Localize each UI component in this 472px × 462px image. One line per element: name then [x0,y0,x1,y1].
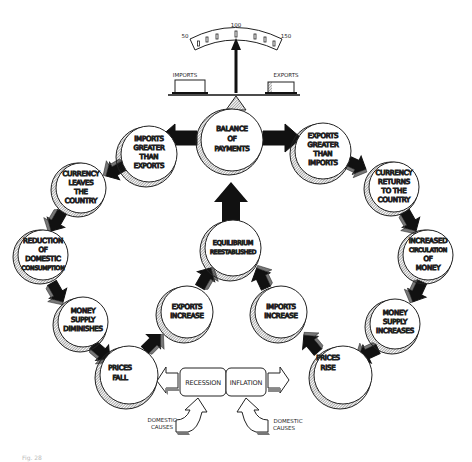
svg-text:INCREASE: INCREASE [264,312,298,320]
svg-text:EXPORTS: EXPORTS [134,162,165,170]
node-balance-of-payments: BALANCE OF PAYMENTS [196,109,263,175]
domestic-causes-right-line1: DOMESTIC [273,418,302,424]
exports-label: EXPORTS [273,72,299,78]
svg-text:LEAVES: LEAVES [68,179,94,187]
svg-text:CONSUMPTION: CONSUMPTION [22,264,65,271]
cause-arrow-left-icon [176,398,207,435]
svg-text:COUNTRY: COUNTRY [65,197,98,205]
svg-text:EXPORTS: EXPORTS [172,303,203,311]
svg-text:REDUCTION: REDUCTION [23,237,63,245]
imports-weight [172,80,208,93]
node-currency-returns: CURRENCY RETURNS TO THE COUNTRY [364,162,419,216]
svg-text:IMPORTS: IMPORTS [308,159,338,167]
node-currency-leaves: CURRENCY LEAVES THE COUNTRY [51,163,106,217]
svg-text:OF: OF [227,135,236,143]
svg-text:FALL: FALL [112,374,127,382]
svg-text:IMPORTS: IMPORTS [134,135,164,143]
svg-text:COUNTRY: COUNTRY [378,196,411,204]
fulcrum [226,96,246,110]
svg-text:GREATER: GREATER [307,141,338,149]
svg-text:EQUILIBRIUM: EQUILIBRIUM [213,239,254,247]
svg-text:DIMINISHES: DIMINISHES [63,325,103,333]
svg-text:THE: THE [73,188,87,196]
gauge-tick-100: 100 [231,22,242,28]
domestic-causes-left-line1: DOMESTIC [147,417,176,423]
node-exports-greater: EXPORTS GREATER THAN IMPORTS [290,123,351,184]
svg-text:INCREASE: INCREASE [170,312,204,320]
node-reduction-consumption: REDUCTION OF DOMESTIC CONSUMPTION [13,230,68,284]
node-increased-circulation: INCREASED CIRCULATION OF MONEY [398,230,453,284]
svg-text:BALANCE: BALANCE [216,125,248,133]
figure-caption: Fig. 28 [22,454,42,462]
scale-gauge: 50 100 150 IMPORTS EXPORTS [168,22,300,110]
balance-of-payments-diagram: 50 100 150 IMPORTS EXPORTS [0,0,472,462]
svg-text:INCREASED: INCREASED [409,237,448,245]
node-supply-increases: MONEY SUPPLY INCREASES [365,299,420,354]
svg-text:THAN: THAN [139,153,159,161]
exports-weight [265,82,297,93]
gauge-tick-50: 50 [182,33,189,39]
node-exports-increase: EXPORTS INCREASE [156,286,213,343]
node-imports-greater: IMPORTS GREATER THAN EXPORTS [116,126,177,187]
svg-text:MONEY: MONEY [71,307,96,315]
arrow-icon [214,182,248,222]
svg-text:OF: OF [38,246,47,254]
svg-text:INFLATION: INFLATION [230,379,263,387]
svg-text:CURRENCY: CURRENCY [376,169,414,177]
node-equilibrium: EQUILIBRIUM REESTABLISHED [200,220,261,281]
node-prices-fall: PRICES FALL [95,346,158,409]
svg-text:RISE: RISE [321,364,336,372]
node-prices-rise: PRICES RISE [309,346,372,409]
svg-text:PAYMENTS: PAYMENTS [214,145,250,153]
cause-arrow-right-icon [237,398,270,435]
svg-text:TO THE: TO THE [381,187,407,195]
inflation-box: INFLATION [226,368,266,396]
svg-text:MONEY: MONEY [383,309,408,317]
svg-text:MONEY: MONEY [416,264,441,272]
domestic-causes-left-line2: CAUSES [151,424,174,430]
recession-box: RECESSION [180,368,226,396]
svg-text:IMPORTS: IMPORTS [266,303,296,311]
gauge-tick-150: 150 [281,33,292,39]
svg-text:CURRENCY: CURRENCY [63,170,101,178]
svg-text:INCREASES: INCREASES [376,327,415,335]
hollow-arrow-left-icon [157,367,180,395]
svg-text:GREATER: GREATER [133,144,164,152]
svg-text:PRICES: PRICES [108,364,132,372]
svg-text:SUPPLY: SUPPLY [71,316,96,324]
svg-text:SUPPLY: SUPPLY [383,318,408,326]
svg-text:PRICES: PRICES [316,354,340,362]
svg-text:RETURNS: RETURNS [378,178,411,186]
imports-label: IMPORTS [173,72,198,78]
nodes: BALANCE OF PAYMENTS IMPORTS GREATER THAN… [13,109,453,409]
node-supply-diminishes: MONEY SUPPLY DIMINISHES [53,297,108,352]
svg-text:EXPORTS: EXPORTS [308,132,339,140]
node-imports-increase: IMPORTS INCREASE [250,286,307,343]
svg-text:REESTABLISHED: REESTABLISHED [210,248,257,255]
svg-text:THAN: THAN [313,150,333,158]
svg-text:RECESSION: RECESSION [185,379,221,387]
hollow-arrow-right-icon [268,367,289,393]
svg-text:CIRCULATION: CIRCULATION [409,246,447,253]
domestic-causes-right-line2: CAUSES [273,425,296,431]
svg-text:DOMESTIC: DOMESTIC [25,255,61,263]
svg-text:OF: OF [423,255,432,263]
